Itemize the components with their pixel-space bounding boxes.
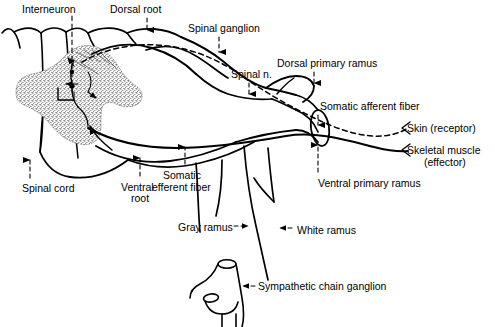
label-ventral-primary-ramus: Ventral primary ramus <box>318 178 421 190</box>
label-spinal-n: Spinal n. <box>231 69 272 81</box>
label-interneuron: Interneuron <box>22 4 76 16</box>
label-white-ramus: White ramus <box>297 225 356 237</box>
gray-matter <box>16 45 142 144</box>
label-skeletal-muscle-effector: (effector) <box>424 157 466 169</box>
label-gray-ramus: Gray ramus <box>178 222 233 234</box>
diagram-canvas: Interneuron Dorsal root Spinal ganglion … <box>0 0 495 327</box>
label-dorsal-root: Dorsal root <box>110 4 161 16</box>
label-ventral-root-line2: root <box>131 193 149 205</box>
label-skin-receptor: Skin (receptor) <box>407 123 476 135</box>
sympathetic-chain <box>190 260 244 327</box>
white-ramus-branch <box>244 146 274 280</box>
label-spinal-cord: Spinal cord <box>22 183 75 195</box>
efferent-fiber-path <box>88 128 408 151</box>
label-sympathetic-chain-ganglion: Sympathetic chain ganglion <box>258 281 386 293</box>
label-somatic-afferent-fiber: Somatic afferent fiber <box>320 101 420 113</box>
ventral-root-band <box>96 142 254 167</box>
label-somatic-efferent-fiber: Somatic <box>163 170 201 182</box>
label-dorsal-primary-ramus: Dorsal primary ramus <box>277 58 377 70</box>
anatomy-illustration <box>0 0 495 327</box>
label-skeletal-muscle: Skeletal muscle <box>407 145 481 157</box>
label-spinal-ganglion: Spinal ganglion <box>188 23 260 35</box>
label-somatic-efferent-fiber-line2: efferent fiber <box>152 182 211 194</box>
